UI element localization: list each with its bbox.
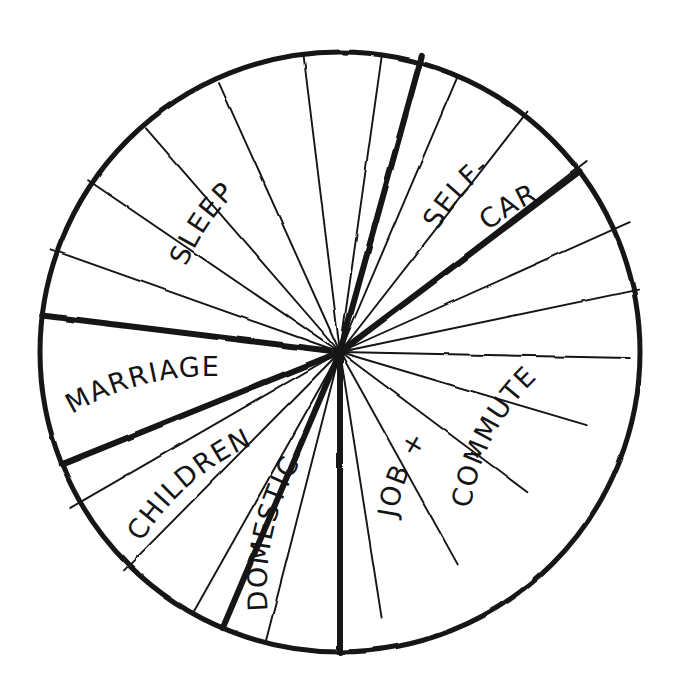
hand-drawn-pie-chart: SLEEP SELF- CARE JOB + COMMUTE DOMESTIC … (0, 0, 675, 696)
pie-chart-canvas: SLEEP SELF- CARE JOB + COMMUTE DOMESTIC … (0, 0, 675, 696)
